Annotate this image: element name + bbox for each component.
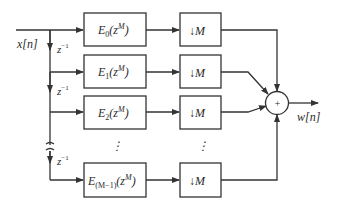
- svg-text:z−1: z−1: [56, 42, 69, 55]
- filter-label-e1: E1(zM): [97, 64, 129, 81]
- delay-label-1: z−1: [56, 42, 69, 55]
- filter-label-e0: E0(zM): [97, 22, 129, 39]
- branch-m1-to-sum: [221, 115, 277, 180]
- sum-symbol: +: [274, 98, 281, 109]
- polyphase-diagram: x[n] w[n] + z−1 z−1 z−1 E0(zM) E1(zM) E2…: [0, 0, 340, 215]
- decimator-label-m1: ↓M: [189, 174, 206, 188]
- svg-text:z−1: z−1: [56, 84, 69, 97]
- output-label: w[n]: [297, 110, 321, 124]
- decimator-label-0: ↓M: [189, 24, 206, 38]
- branch-1-to-sum: [221, 72, 268, 94]
- delay-label-3: z−1: [56, 154, 69, 167]
- input-label: x[n]: [16, 37, 38, 51]
- filter-label-em1: E(M−1)(zM): [87, 173, 136, 190]
- ellipsis-filters: ⋮: [111, 139, 123, 153]
- decimator-label-2: ↓M: [189, 106, 206, 120]
- branch-0-to-sum: [221, 30, 277, 91]
- filter-label-e2: E2(zM): [97, 105, 129, 122]
- branch-2-to-sum: [221, 106, 266, 112]
- decimator-label-1: ↓M: [189, 66, 206, 80]
- svg-text:z−1: z−1: [56, 154, 69, 167]
- delay-label-2: z−1: [56, 84, 69, 97]
- ellipsis-decimators: ⋮: [197, 139, 209, 153]
